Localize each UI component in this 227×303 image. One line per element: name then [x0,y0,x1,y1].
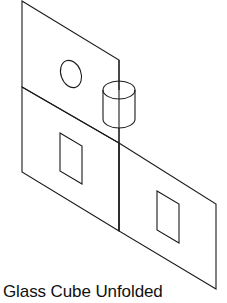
left-window [60,133,82,184]
glass-cube-diagram [0,0,227,303]
right-panel [119,143,216,289]
circle-hole-icon [57,57,85,90]
diagram-caption: Glass Cube Unfolded [3,282,163,302]
right-window [157,191,179,243]
